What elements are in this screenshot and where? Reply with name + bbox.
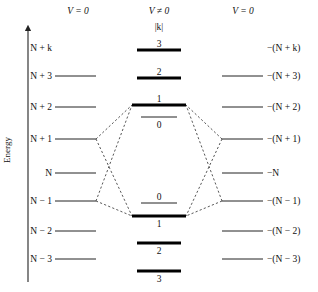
split-level-label: 1: [157, 219, 162, 229]
energy-level-label: N: [45, 168, 52, 178]
energy-level-label: −(N + 3): [267, 71, 300, 82]
energy-level-label: −N: [267, 168, 279, 178]
column-headers: V = 0 V ≠ 0 V = 0 |k|: [67, 6, 254, 32]
center-column-header: V ≠ 0: [149, 6, 170, 16]
right-N+1-to-upper-band: [186, 105, 222, 139]
left-N+1-to-upper-band: [96, 105, 132, 139]
energy-axis: Energy: [2, 28, 28, 282]
energy-level-label: −(N + 2): [267, 102, 300, 113]
energy-level-label: N + 3: [30, 71, 52, 81]
left-column-header: V = 0: [67, 6, 89, 16]
right-column-header: V = 0: [232, 6, 254, 16]
diagram-canvas: Energy V = 0 V ≠ 0 V = 0 |k| N + kN + 3N…: [0, 0, 318, 292]
energy-level-label: −(N + 1): [267, 134, 300, 145]
split-level-label: 0: [157, 192, 162, 202]
energy-level-label: −(N − 2): [267, 226, 300, 237]
energy-level-label: −(N − 3): [267, 254, 300, 265]
split-level-label: 2: [157, 67, 162, 77]
split-level-label: 2: [157, 246, 162, 256]
energy-level-label: N − 2: [30, 226, 52, 236]
right-N-1-to-lower-band: [186, 201, 222, 216]
split-level-label: 0: [157, 120, 162, 130]
left-N-1-to-lower-band: [96, 201, 132, 216]
split-level-label: 3: [157, 274, 162, 284]
energy-level-label: N + 2: [30, 102, 52, 112]
split-level-label: 3: [157, 39, 162, 49]
energy-axis-label: Energy: [2, 137, 12, 163]
left-N-1-to-upper-band: [96, 105, 132, 201]
energy-level-label: N + 1: [30, 134, 52, 144]
modulus-k-header: |k|: [155, 22, 164, 32]
energy-level-label: N − 3: [30, 254, 52, 264]
right-energy-levels: −(N + k)−(N + 3)−(N + 2)−(N + 1)−N−(N − …: [222, 43, 300, 265]
left-N+1-to-lower-band: [96, 139, 132, 216]
left-energy-levels: N + kN + 3N + 2N + 1NN − 1N − 2N − 3: [30, 43, 96, 264]
split-level-label: 1: [157, 94, 162, 104]
energy-level-diagram: Energy V = 0 V ≠ 0 V = 0 |k| N + kN + 3N…: [0, 0, 318, 292]
energy-level-label: N + k: [30, 43, 52, 53]
right-N-1-to-upper-band: [186, 105, 222, 201]
energy-level-label: −(N − 1): [267, 196, 300, 207]
energy-level-label: N − 1: [30, 196, 52, 206]
right-N+1-to-lower-band: [186, 139, 222, 216]
center-energy-levels: 32100123: [132, 39, 186, 284]
energy-level-label: −(N + k): [267, 43, 300, 54]
